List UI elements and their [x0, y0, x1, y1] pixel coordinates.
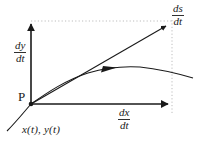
dx-dt-numerator: dx — [118, 107, 130, 120]
dx-dt-denominator: dt — [118, 120, 130, 132]
dx-dt-fraction: dx dt — [118, 107, 130, 131]
dy-dt-numerator: dy — [14, 40, 26, 53]
dy-dt-label: dy dt — [14, 40, 26, 65]
dy-dt-denominator: dt — [14, 53, 26, 65]
curve-direction-arrow-icon — [101, 66, 117, 73]
trajectory-curve — [7, 67, 193, 131]
dy-dt-fraction: dy dt — [14, 40, 26, 64]
ds-dt-denominator: dt — [172, 16, 184, 28]
ds-dt-numerator: ds — [172, 3, 184, 16]
ds-dt-fraction: ds dt — [172, 3, 184, 27]
point-p-marker — [29, 102, 34, 107]
parametric-coordinates-label: x(t), y(t) — [22, 124, 60, 135]
point-p-label: P — [18, 90, 25, 103]
dx-dt-label: dx dt — [118, 107, 130, 132]
velocity-vector-diagram: dy dt ds dt dx dt P x(t), y(t) — [0, 0, 197, 144]
ds-dt-resultant-arrow — [31, 26, 166, 104]
ds-dt-label: ds dt — [172, 3, 184, 28]
